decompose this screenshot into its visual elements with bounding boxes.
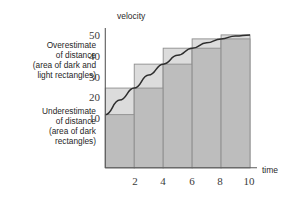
underestimate-note-line-4: rectangles) [55,136,96,146]
underestimate-note-line-2: of distance [56,116,97,126]
overestimate-note-line-3: (area of dark and [33,60,97,70]
underestimate-note-line-3: (area of dark [49,126,97,136]
x-tick-label-2: 2 [132,175,138,187]
underestimate-bar-5 [221,39,250,168]
overestimate-note-line-2: of distance [56,50,97,60]
underestimate-bar-3 [163,64,192,168]
overestimate-note-line-1: Overestimate [47,40,97,50]
x-tick-label-4: 4 [160,175,166,187]
underestimate-note: Underestimate of distance (area of dark … [42,106,97,146]
y-axis-title: velocity [117,11,146,21]
underestimate-bar-1 [105,115,134,168]
underestimate-note-line-1: Underestimate [42,106,96,116]
y-tick-label-20: 20 [89,91,101,103]
x-tick-label-6: 6 [189,175,195,187]
x-tick-label-10: 10 [244,175,256,187]
underestimate-bar-2 [134,88,163,168]
overestimate-note: Overestimate of distance (area of dark a… [33,40,97,80]
chart-svg: 50 40 30 20 10 2 4 6 8 10 velocity time … [0,0,291,203]
velocity-time-chart: 50 40 30 20 10 2 4 6 8 10 velocity time … [0,0,291,203]
underestimate-bar-4 [192,48,221,168]
x-tick-label-8: 8 [217,175,223,187]
overestimate-note-line-4: light rectangles) [37,70,96,80]
x-axis-title: time [262,165,278,175]
